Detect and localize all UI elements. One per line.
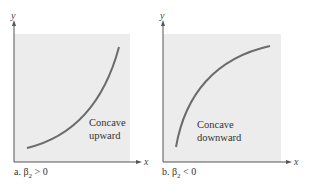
panel-a-caption: a. β2 > 0: [14, 167, 48, 180]
panel-b-annotation-line2: downward: [197, 131, 241, 144]
panel-b-x-label: x: [294, 157, 298, 167]
panel-b-y-label: y: [160, 11, 164, 21]
panel-a-annotation: Concave upward: [89, 116, 126, 142]
panel-b-annotation: Concave downward: [197, 118, 241, 144]
panel-a-y-label: y: [11, 11, 15, 21]
panel-a-background: [14, 34, 130, 162]
panel-a-caption-cond: > 0: [32, 166, 48, 177]
panel-a-x-arrow-icon: [136, 160, 142, 164]
panel-b-caption-text: b. β: [162, 166, 177, 177]
panel-a: [12, 20, 142, 164]
charts-canvas: [0, 0, 312, 188]
panel-a-caption-text: a. β: [14, 166, 29, 177]
panel-a-x-label: x: [144, 157, 148, 167]
panel-b-caption-cond: < 0: [181, 166, 197, 177]
panel-b-x-arrow-icon: [286, 160, 292, 164]
panel-b-annotation-line1: Concave: [197, 118, 241, 131]
panel-b-caption: b. β2 < 0: [162, 167, 196, 180]
panel-a-annotation-line2: upward: [89, 129, 126, 142]
panel-a-annotation-line1: Concave: [89, 116, 126, 129]
